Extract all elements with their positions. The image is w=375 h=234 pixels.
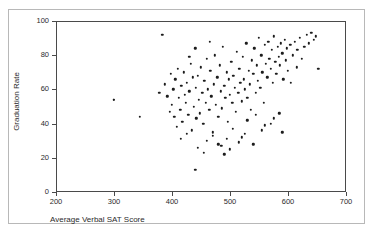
x-tick-mark: [230, 192, 231, 196]
data-point: [305, 33, 307, 35]
data-point: [179, 138, 181, 140]
data-point: [174, 78, 176, 80]
x-tick-label: 300: [108, 198, 121, 206]
y-tick-mark: [52, 89, 56, 90]
data-point: [261, 129, 263, 131]
data-point: [113, 98, 115, 100]
data-point: [203, 151, 205, 153]
data-point: [220, 145, 222, 147]
data-point: [250, 109, 252, 111]
x-tick-mark: [172, 192, 173, 196]
data-point: [284, 59, 286, 61]
data-point: [296, 49, 298, 51]
top-text-fragment: [0, 0, 375, 8]
data-point: [252, 73, 254, 75]
data-point: [271, 49, 273, 51]
data-point: [231, 102, 233, 104]
x-tick-label: 500: [224, 198, 237, 206]
data-point: [209, 69, 211, 71]
data-point: [172, 88, 174, 90]
data-point: [158, 92, 160, 94]
data-point: [275, 73, 277, 75]
data-point: [213, 83, 215, 85]
x-tick-label: 200: [50, 198, 63, 206]
data-point: [240, 136, 242, 138]
data-point: [259, 86, 261, 88]
data-point: [208, 40, 210, 42]
data-point: [247, 69, 249, 71]
data-point: [218, 64, 220, 66]
data-point: [260, 54, 262, 56]
data-point: [317, 68, 319, 70]
data-point: [243, 78, 245, 80]
data-point: [166, 95, 168, 97]
data-point: [267, 40, 269, 42]
data-point: [191, 129, 193, 131]
data-point: [201, 92, 203, 94]
data-point: [246, 97, 248, 99]
x-axis-label: Average Verbal SAT Score: [50, 215, 145, 224]
data-point: [207, 88, 209, 90]
data-point: [182, 71, 184, 73]
data-point: [186, 81, 188, 83]
data-point: [216, 76, 218, 78]
data-point: [204, 102, 206, 104]
data-point: [226, 138, 228, 140]
data-point: [265, 63, 267, 65]
x-tick-mark: [346, 192, 347, 196]
data-point: [236, 51, 238, 53]
data-point: [220, 90, 222, 92]
data-point: [208, 109, 210, 111]
data-point: [206, 57, 208, 59]
data-point: [211, 131, 213, 133]
data-point: [253, 47, 255, 49]
data-point: [233, 86, 235, 88]
data-point: [286, 47, 288, 49]
data-point: [210, 95, 212, 97]
data-point: [282, 78, 284, 80]
x-tick-mark: [288, 192, 289, 196]
x-tick-label: 400: [166, 198, 179, 206]
data-point: [287, 69, 289, 71]
data-point: [225, 71, 227, 73]
data-point: [229, 148, 231, 150]
data-point: [211, 134, 213, 136]
x-tick-label: 600: [282, 198, 295, 206]
data-point: [171, 104, 173, 106]
data-point: [200, 66, 202, 68]
data-point: [295, 66, 297, 68]
data-point: [273, 35, 275, 37]
data-point: [168, 110, 170, 112]
data-point: [272, 81, 274, 83]
data-point: [180, 85, 182, 87]
y-tick-label: 100: [24, 17, 49, 25]
y-tick-label: 40: [24, 120, 49, 128]
y-tick-mark: [52, 21, 56, 22]
y-tick-mark: [52, 158, 56, 159]
data-point: [278, 56, 280, 58]
data-point: [274, 61, 276, 63]
data-point: [202, 122, 204, 124]
data-point: [199, 112, 201, 114]
data-point: [281, 52, 283, 54]
data-point: [230, 61, 232, 63]
data-point: [315, 35, 317, 37]
data-point: [192, 76, 194, 78]
data-point: [251, 59, 253, 61]
scatter-plot-figure: 020406080100200300400500600700 Average V…: [0, 0, 375, 234]
data-point: [280, 42, 282, 44]
data-point: [232, 128, 234, 130]
data-point: [170, 73, 172, 75]
data-point: [237, 141, 239, 143]
data-point: [264, 124, 266, 126]
plot-data-area: [56, 21, 346, 192]
data-point: [240, 100, 242, 102]
data-point: [197, 146, 199, 148]
data-point: [223, 85, 225, 87]
data-point: [195, 117, 197, 119]
data-point: [244, 88, 246, 90]
data-point: [215, 104, 217, 106]
data-point: [245, 42, 247, 44]
data-point: [203, 80, 205, 82]
data-point: [178, 97, 180, 99]
